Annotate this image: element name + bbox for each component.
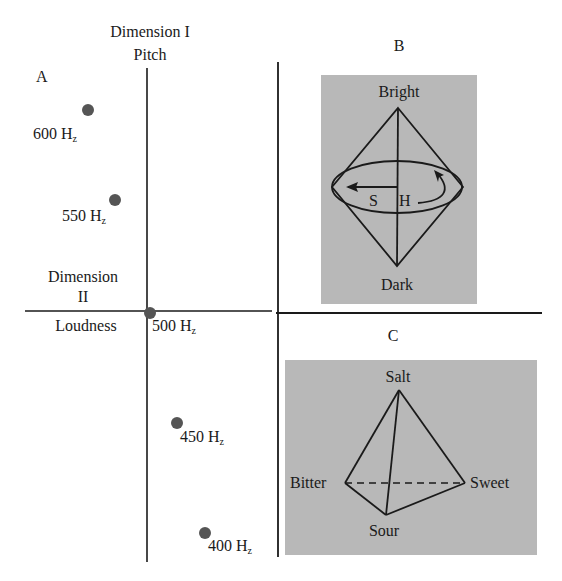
point-550hz	[109, 194, 121, 206]
dark-label: Dark	[381, 276, 413, 293]
panel-a-letter: A	[36, 68, 48, 85]
panel-c-letter: C	[388, 327, 399, 344]
bitter-label: Bitter	[290, 474, 326, 491]
freq-value: 550	[62, 207, 86, 224]
dimension-1-title: Dimension I	[110, 23, 190, 40]
unit-sub: z	[220, 436, 224, 447]
unit-sub: z	[192, 325, 196, 336]
point-600hz	[82, 104, 94, 116]
unit: H	[208, 428, 220, 445]
freq-value: 450	[180, 428, 204, 445]
unit-sub: z	[248, 545, 252, 556]
freq-value: 600	[33, 125, 57, 142]
salt-label: Salt	[386, 368, 411, 385]
saturation-label: S	[369, 192, 378, 209]
label-600hz: 600 Hz	[33, 125, 77, 147]
unit: H	[180, 317, 192, 334]
dimension-2-number: II	[78, 288, 89, 305]
freq-value: 500	[152, 317, 176, 334]
panel-c-background	[285, 360, 537, 555]
unit-sub: z	[102, 215, 106, 226]
sour-label: Sour	[369, 522, 399, 539]
hue-label: H	[399, 192, 411, 209]
panel-b-letter: B	[394, 37, 405, 54]
unit: H	[236, 537, 248, 554]
label-550hz: 550 Hz	[62, 207, 106, 229]
unit: H	[90, 207, 102, 224]
bright-label: Bright	[379, 83, 420, 100]
sweet-label: Sweet	[470, 474, 509, 491]
label-450hz: 450 Hz	[180, 428, 224, 450]
dimension-2-label: Loudness	[55, 317, 116, 334]
unit: H	[61, 125, 73, 142]
label-400hz: 400 Hz	[208, 537, 252, 559]
label-500hz: 500 Hz	[152, 317, 196, 339]
freq-value: 400	[208, 537, 232, 554]
unit-sub: z	[73, 133, 77, 144]
dimension-1-label: Pitch	[134, 46, 167, 63]
dimension-2-title: Dimension	[48, 268, 118, 285]
